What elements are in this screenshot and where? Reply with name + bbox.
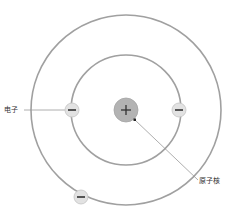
electron-left	[65, 103, 79, 117]
nucleus-leader-dot	[134, 119, 137, 122]
electron-bottom	[74, 190, 88, 204]
nucleus-label: 原子核	[199, 177, 220, 185]
atom-diagram	[0, 0, 225, 214]
electron-right	[172, 103, 186, 117]
electron-label: 电子	[4, 106, 18, 114]
nucleus-leader-line	[135, 120, 198, 180]
